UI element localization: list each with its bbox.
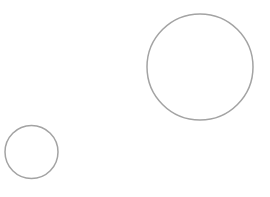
canvas-background bbox=[0, 0, 270, 197]
drawing-canvas bbox=[0, 0, 270, 197]
shape-canvas-svg bbox=[0, 0, 270, 197]
